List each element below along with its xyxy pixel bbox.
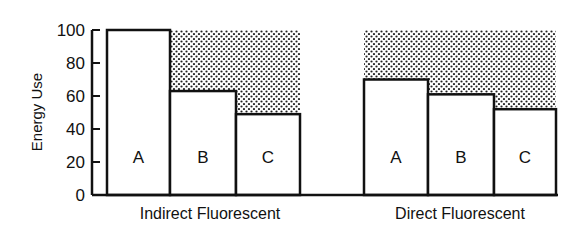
bar-category-label: A [133, 148, 145, 167]
y-axis: 020406080100 [57, 21, 100, 205]
bar-category-label: B [197, 148, 208, 167]
y-tick-label: 60 [66, 87, 85, 106]
bar-category-label: C [519, 148, 531, 167]
bar [170, 91, 236, 195]
y-tick-label: 80 [66, 54, 85, 73]
y-tick-label: 40 [66, 120, 85, 139]
group-label: Direct Fluorescent [395, 205, 525, 222]
y-axis-title: Energy Use [28, 73, 45, 151]
x-axis: Indirect FluorescentDirect Fluorescent [92, 195, 558, 222]
y-tick-label: 100 [57, 21, 85, 40]
bar-category-label: B [455, 148, 466, 167]
bar-chart: 020406080100 ABCABC Indirect Fluorescent… [0, 0, 581, 230]
y-tick-label: 20 [66, 153, 85, 172]
bar-category-label: A [390, 148, 402, 167]
bar-category-label: C [262, 148, 274, 167]
bar [107, 30, 170, 195]
bar [364, 80, 428, 196]
group-label: Indirect Fluorescent [140, 205, 281, 222]
y-tick-label: 0 [76, 186, 85, 205]
bar [428, 94, 494, 195]
